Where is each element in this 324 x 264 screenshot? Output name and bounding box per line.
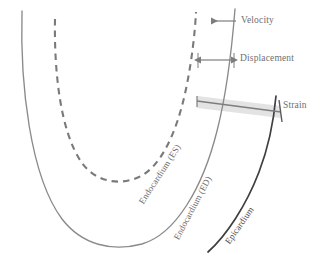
endocardium-ed-curve: [22, 9, 235, 247]
cardiac-deformation-figure: [0, 0, 324, 264]
displacement-label: Displacement: [240, 53, 294, 63]
diagram-canvas: Velocity Displacement Strain Endocardium…: [0, 0, 324, 264]
strain-label: Strain: [283, 100, 307, 110]
velocity-label: Velocity: [241, 15, 274, 25]
